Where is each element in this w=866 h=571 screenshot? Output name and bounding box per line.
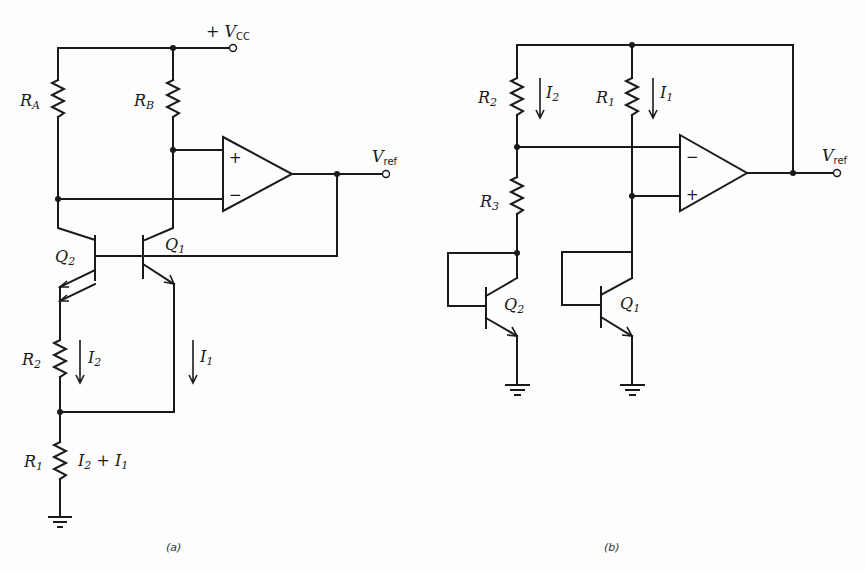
current-arrow-icon — [76, 340, 84, 383]
current-arrow-icon — [536, 78, 544, 118]
vref-terminal-a — [383, 171, 390, 178]
caption-b: (b) — [604, 541, 620, 554]
panel-a: + VCC RA RB + − Vref Q2 — [19, 22, 398, 554]
vcc-label: + VCC — [206, 22, 250, 42]
resistor-r1-a — [54, 442, 66, 479]
r1-label-b: R1 — [595, 88, 615, 109]
resistor-r3-b — [511, 177, 523, 214]
vcc-terminal — [230, 45, 237, 52]
ground-icon — [49, 517, 71, 527]
q2-label-a: Q2 — [55, 247, 75, 268]
i2-label-a: I2 — [87, 348, 101, 369]
r3-label-b: R3 — [479, 192, 499, 213]
opamp-a-plus: + — [229, 149, 242, 167]
resistor-r2-a — [54, 340, 66, 377]
opamp-b-plus: + — [686, 186, 699, 204]
circuit-figure: + VCC RA RB + − Vref Q2 — [0, 0, 866, 571]
ground-icon — [621, 385, 644, 395]
resistor-r1-b — [626, 78, 638, 115]
r2-label-b: R2 — [477, 88, 497, 109]
i2-label-b: I2 — [545, 83, 559, 104]
vref-label-a: Vref — [372, 147, 398, 167]
q1-label-b: Q1 — [620, 294, 640, 315]
opamp-a-minus: − — [229, 186, 242, 204]
i1-label-b: I1 — [659, 83, 673, 104]
vref-terminal-b — [834, 170, 841, 177]
resistor-ra — [52, 80, 64, 117]
r2-label-a: R2 — [21, 350, 41, 371]
i1-label-a: I1 — [199, 347, 213, 368]
resistor-r2-b — [511, 78, 523, 115]
panel-b: R2 I2 R1 I1 − + Vref R3 Q2 — [448, 42, 848, 554]
ra-label: RA — [19, 91, 40, 112]
q1-label-a: Q1 — [165, 235, 185, 256]
vref-label-b: Vref — [822, 146, 848, 166]
current-arrow-icon — [649, 78, 657, 118]
resistor-rb — [167, 80, 179, 117]
opamp-b-minus: − — [686, 148, 699, 166]
junction-dot — [790, 170, 796, 176]
ground-icon — [506, 385, 529, 395]
current-arrow-icon — [189, 340, 197, 383]
rb-label: RB — [133, 91, 154, 112]
q2-label-b: Q2 — [504, 295, 524, 316]
r1-label-a: R1 — [23, 452, 43, 473]
caption-a: (a) — [166, 541, 181, 554]
i-sum-label: I2 + I1 — [77, 451, 128, 472]
